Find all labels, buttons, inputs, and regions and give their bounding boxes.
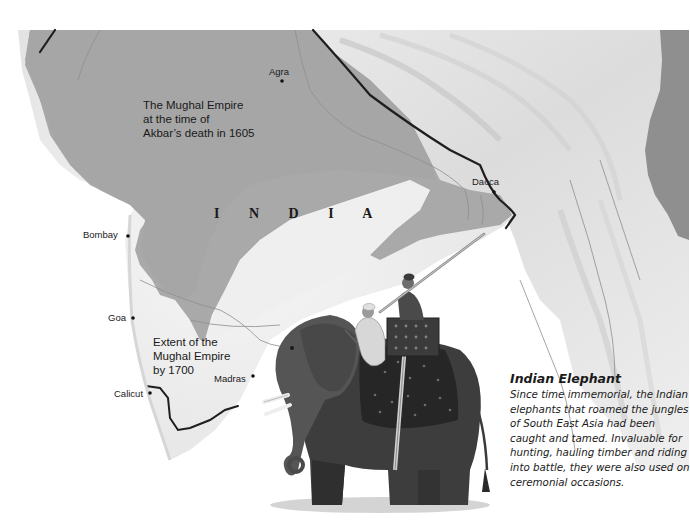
city-label-agra: Agra — [269, 66, 289, 77]
city-label-dacca: Dacca — [472, 176, 499, 187]
caption-title: Indian Elephant — [510, 371, 690, 386]
city-label-goa: Goa — [108, 312, 126, 323]
city-label-madras: Madras — [214, 373, 246, 384]
region-label-empire-1605: The Mughal Empire at the time of Akbar’s… — [143, 98, 254, 140]
country-label-india: I N D I A — [214, 206, 385, 222]
city-label-bombay: Bombay — [83, 229, 118, 240]
region-label-empire-1700: Extent of the Mughal Empire by 1700 — [153, 335, 230, 377]
city-label-calicut: Calicut — [114, 388, 143, 399]
elephant-caption: Indian Elephant Since time immemorial, t… — [510, 371, 690, 489]
caption-body: Since time immemorial, the Indian elepha… — [510, 387, 690, 489]
